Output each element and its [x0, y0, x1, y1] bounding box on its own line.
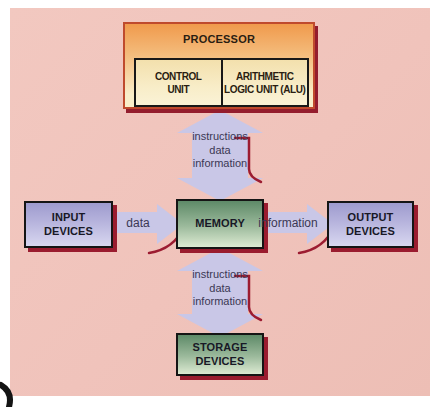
- processor-box: PROCESSOR CONTROL UNIT ARITHMETIC LOGIC …: [123, 22, 315, 109]
- processor-memory-flow-label: instructions data information: [160, 130, 280, 171]
- output-devices-box: OUTPUT DEVICES: [327, 201, 414, 248]
- alu-box: ARITHMETIC LOGIC UNIT (ALU): [221, 60, 308, 105]
- storage-devices-line1: STORAGE: [193, 341, 248, 355]
- control-unit-line2: UNIT: [167, 83, 189, 96]
- alu-line2: LOGIC UNIT (ALU): [224, 83, 305, 96]
- flow1-line1: instructions: [160, 130, 280, 144]
- alu-line1: ARITHMETIC: [236, 70, 294, 83]
- input-memory-flow-label: data: [116, 216, 160, 230]
- memory-storage-flow-label: instructions data information: [160, 268, 280, 309]
- output-devices-line1: OUTPUT: [348, 211, 394, 225]
- input-devices-line1: INPUT: [52, 211, 86, 225]
- flow2-line2: data: [160, 282, 280, 296]
- control-unit-line1: CONTROL: [155, 70, 202, 83]
- memory-label: MEMORY: [195, 217, 245, 231]
- flow2-line3: information: [160, 295, 280, 309]
- input-devices-line2: DEVICES: [44, 225, 93, 239]
- storage-devices-line2: DEVICES: [196, 355, 245, 369]
- output-devices-line2: DEVICES: [346, 225, 395, 239]
- control-unit-box: CONTROL UNIT: [136, 60, 221, 105]
- memory-output-flow-label: information: [252, 216, 324, 230]
- page-corner-mark: [1, 385, 10, 407]
- flow2-line1: instructions: [160, 268, 280, 282]
- flow1-line3: information: [160, 157, 280, 171]
- flow1-line2: data: [160, 144, 280, 158]
- processor-title: PROCESSOR: [125, 33, 313, 45]
- input-devices-box: INPUT DEVICES: [24, 201, 113, 248]
- storage-devices-box: STORAGE DEVICES: [176, 333, 264, 376]
- processor-subunits: CONTROL UNIT ARITHMETIC LOGIC UNIT (ALU): [134, 58, 309, 107]
- memory-box: MEMORY: [176, 199, 264, 249]
